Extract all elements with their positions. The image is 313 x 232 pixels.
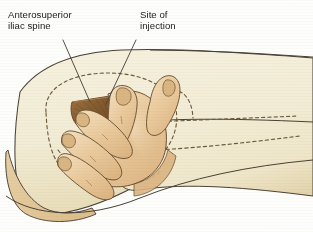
thumb-nail xyxy=(163,80,175,96)
little-nail xyxy=(58,157,71,171)
ring-nail xyxy=(62,134,75,148)
index-nail xyxy=(116,88,131,105)
ventrogluteal-injection-illustration xyxy=(0,0,313,232)
middle-nail xyxy=(76,113,89,127)
label-anterosuperior-iliac-spine: Anterosuperior iliac spine xyxy=(8,9,72,32)
label-site-of-injection: Site of injection xyxy=(140,9,176,32)
